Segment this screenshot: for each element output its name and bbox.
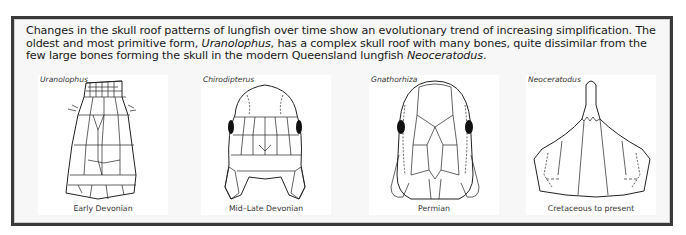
skull-roof-neoceratodus-icon xyxy=(526,75,656,215)
caption-text: . xyxy=(483,49,486,62)
figure-caption: Changes in the skull roof patterns of lu… xyxy=(26,25,662,63)
caption-genus-uranolophus: Uranolophus xyxy=(202,37,271,50)
skull-roof-uranolophus-icon xyxy=(38,75,168,215)
panel-neoceratodus: Neoceratodus Cretaceous to present xyxy=(526,75,656,215)
period-label: Mid–Late Devonian xyxy=(201,204,331,213)
period-label: Permian xyxy=(369,204,499,213)
panel-chirodipterus: Chirodipterus Mid–Late Devonian xyxy=(201,75,331,215)
skull-roof-gnathorhiza-icon xyxy=(369,75,499,215)
panel-uranolophus: Uranolophus Early Devonian xyxy=(38,75,168,215)
skull-roof-chirodipterus-icon xyxy=(201,75,331,215)
period-label: Early Devonian xyxy=(38,204,168,213)
figure-frame: Changes in the skull roof patterns of lu… xyxy=(11,16,673,226)
panel-gnathorhiza: Gnathorhiza Permian xyxy=(369,75,499,215)
caption-genus-neoceratodus: Neoceratodus xyxy=(407,49,483,62)
period-label: Cretaceous to present xyxy=(526,204,656,213)
